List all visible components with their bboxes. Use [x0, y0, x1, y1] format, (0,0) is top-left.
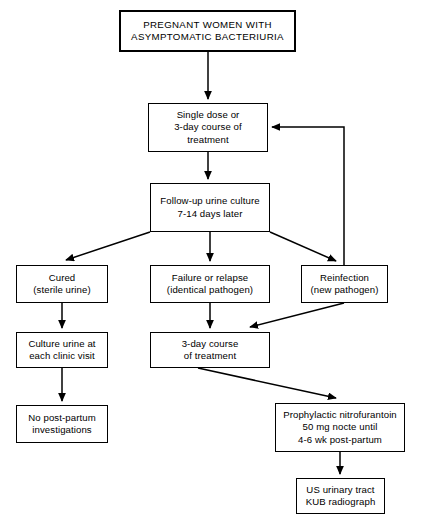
node-label: Culture urine at each clinic visit	[25, 338, 98, 362]
node-pregnant-women-asymptomatic-bacteriuria: PREGNANT WOMEN WITH ASYMPTOMATIC BACTERI…	[119, 10, 296, 52]
node-label: No post-partum investigations	[25, 412, 99, 436]
node-label: Failure or relapse (identical pathogen)	[164, 272, 256, 296]
edge-followup-to-reinfection	[270, 232, 336, 261]
node-label: Single dose or 3-day course of treatment	[171, 109, 245, 146]
node-label: 3-day course of treatment	[179, 338, 242, 362]
node-label: Reinfection (new pathogen)	[307, 272, 381, 296]
node-prophylactic-nitrofurantoin: Prophylactic nitrofurantoin 50 mg nocte …	[275, 403, 405, 452]
node-us-urinary-tract-kub-radiograph: US urinary tract KUB radiograph	[296, 478, 385, 514]
node-label: Prophylactic nitrofurantoin 50 mg nocte …	[280, 409, 400, 446]
flowchart-canvas: PREGNANT WOMEN WITH ASYMPTOMATIC BACTERI…	[0, 0, 423, 527]
node-no-post-partum-investigations: No post-partum investigations	[16, 405, 108, 443]
node-label: Cured (sterile urine)	[30, 272, 93, 296]
node-label: PREGNANT WOMEN WITH ASYMPTOMATIC BACTERI…	[128, 19, 287, 43]
node-followup-urine-culture: Follow-up urine culture 7-14 days later	[150, 183, 270, 232]
node-3-day-course-of-treatment: 3-day course of treatment	[150, 332, 270, 368]
node-label: Follow-up urine culture 7-14 days later	[157, 195, 262, 219]
node-single-dose-or-3-day-course: Single dose or 3-day course of treatment	[148, 103, 268, 152]
node-failure-or-relapse: Failure or relapse (identical pathogen)	[150, 265, 270, 303]
edge-reinfection-to-treatment2	[250, 303, 344, 327]
edge-treatment2-to-prophylaxis	[198, 368, 336, 398]
edge-reinfection-to-treatment1	[272, 127, 344, 265]
node-cured-sterile-urine: Cured (sterile urine)	[16, 265, 108, 303]
node-reinfection-new-pathogen: Reinfection (new pathogen)	[301, 265, 388, 303]
node-label: US urinary tract KUB radiograph	[303, 484, 379, 508]
node-culture-urine-each-clinic-visit: Culture urine at each clinic visit	[16, 332, 108, 368]
edge-followup-to-cured	[66, 232, 150, 260]
